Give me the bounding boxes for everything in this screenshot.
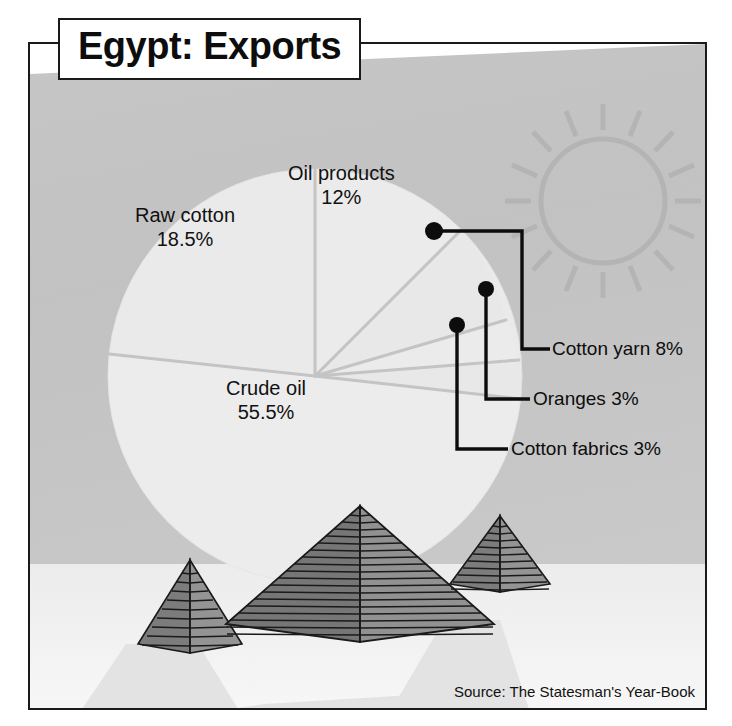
illustration-panel: Oil products 12% Raw cotton 18.5% Crude … bbox=[28, 42, 707, 710]
title-plate: Egypt: Exports bbox=[58, 18, 361, 80]
pyramids-group bbox=[30, 44, 707, 710]
poster-illustration: Oil products 12% Raw cotton 18.5% Crude … bbox=[0, 0, 732, 726]
pyramid-small-right bbox=[450, 516, 550, 592]
pyramid-large-center bbox=[226, 506, 494, 642]
pie-label-raw-cotton-name: Raw cotton bbox=[135, 204, 235, 226]
pyramid-small-left bbox=[138, 560, 242, 653]
callout-label-cotton-fabrics: Cotton fabrics 3% bbox=[511, 438, 661, 460]
pie-label-oil-products: Oil products 12% bbox=[288, 162, 395, 209]
pie-label-crude-oil: Crude oil 55.5% bbox=[226, 377, 306, 424]
pie-label-oil-products-value: 12% bbox=[288, 186, 395, 210]
pie-label-raw-cotton: Raw cotton 18.5% bbox=[135, 204, 235, 251]
pie-label-raw-cotton-value: 18.5% bbox=[135, 228, 235, 252]
page-title: Egypt: Exports bbox=[78, 27, 341, 67]
pie-label-crude-oil-name: Crude oil bbox=[226, 377, 306, 399]
callout-label-oranges: Oranges 3% bbox=[533, 388, 639, 410]
pie-label-oil-products-name: Oil products bbox=[288, 162, 395, 184]
callout-label-cotton-yarn: Cotton yarn 8% bbox=[552, 338, 683, 360]
source-attribution: Source: The Statesman's Year-Book bbox=[454, 683, 695, 700]
pie-label-crude-oil-value: 55.5% bbox=[226, 401, 306, 425]
